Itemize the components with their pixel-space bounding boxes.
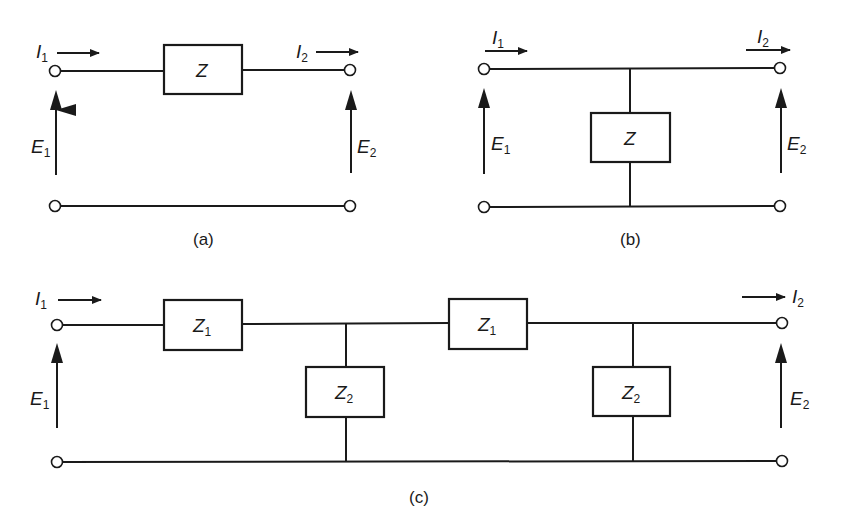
panel-b: Z I1 I2 E1 E2 (b)	[478, 26, 807, 249]
terminal-out-bottom	[775, 201, 786, 212]
voltage-label-in: E1	[491, 133, 511, 157]
current-label-in: I1	[35, 288, 47, 312]
two-port-diagram: Z I1 I2 E1 E2 (a) Z I1 I2	[0, 0, 844, 527]
voltage-label-out: E2	[787, 133, 807, 157]
terminal-in-top	[50, 66, 61, 77]
current-label-in: I1	[36, 41, 48, 65]
panel-a: Z I1 I2 E1 E2 (a)	[31, 41, 377, 249]
voltage-arrowhead-out	[775, 343, 787, 363]
wire-top-2	[242, 323, 449, 324]
voltage-label-in: E1	[30, 388, 50, 412]
current-label-out: I2	[296, 41, 308, 65]
voltage-label-out: E2	[357, 136, 377, 160]
current-label-in: I1	[492, 27, 504, 51]
terminal-in-top	[479, 64, 490, 75]
voltage-label-in: E1	[31, 136, 51, 160]
voltage-arrowhead-out	[775, 88, 787, 108]
caption-c: (c)	[409, 488, 429, 507]
terminal-out-bottom	[777, 456, 788, 467]
voltage-arrowhead-in	[51, 343, 63, 363]
caption-a: (a)	[193, 230, 214, 249]
voltage-label-out: E2	[790, 388, 810, 412]
voltage-arrowhead-in	[50, 90, 62, 110]
terminal-out-bottom	[345, 201, 356, 212]
voltage-arrowhead-in	[478, 88, 490, 108]
wire-top	[489, 68, 775, 69]
caption-b: (b)	[620, 230, 641, 249]
terminal-in-bottom	[52, 457, 63, 468]
terminal-in-bottom	[50, 201, 61, 212]
terminal-out-top	[345, 65, 356, 76]
current-label-out: I2	[757, 26, 769, 50]
terminal-out-top	[777, 318, 788, 329]
wire-bottom	[489, 206, 775, 207]
wire-bottom	[62, 461, 777, 462]
current-label-out: I2	[792, 286, 804, 310]
terminal-in-top	[52, 320, 63, 331]
terminal-out-top	[775, 63, 786, 74]
voltage-arrowhead-out	[345, 90, 357, 110]
terminal-in-bottom	[479, 202, 490, 213]
impedance-label: Z	[623, 128, 637, 149]
panel-c: Z1 Z2 Z1 Z2 I1 I2 E1 E2 (c)	[30, 286, 810, 507]
impedance-label: Z	[195, 60, 209, 81]
